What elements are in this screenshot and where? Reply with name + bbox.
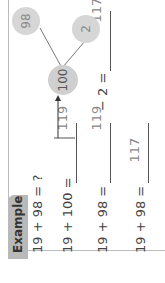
rotated-page: Example 19 + 98 = ? 19 + 100 = 119 19 + … [0, 0, 165, 283]
bond-whole: 100 [48, 65, 78, 95]
bond-part-2: 2 [72, 15, 100, 43]
bond-part-98: 98 [12, 7, 40, 35]
